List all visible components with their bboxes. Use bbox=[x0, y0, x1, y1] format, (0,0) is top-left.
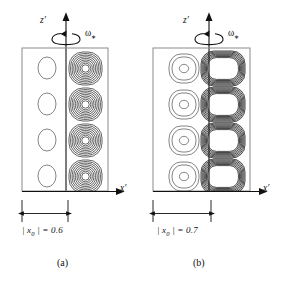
contour-row-a-4 bbox=[38, 160, 102, 193]
contour-row-a-1 bbox=[38, 52, 102, 85]
contour-row-b-3 bbox=[169, 123, 245, 158]
caption-a: (a) bbox=[57, 258, 68, 268]
panel-a: z′ ω∗ x′ | x0 | = 0.6 (a) bbox=[0, 0, 143, 293]
dimension-b bbox=[153, 200, 211, 222]
contour-row-b-1 bbox=[169, 51, 245, 86]
axis-x-label-b: x′ bbox=[263, 184, 269, 194]
axis-x-label-a: x′ bbox=[120, 184, 126, 194]
panel-a-graphic bbox=[0, 0, 143, 293]
contour-row-b-2 bbox=[169, 87, 245, 122]
dimension-label-b: | x0 | = 0.7 bbox=[157, 226, 198, 237]
contour-row-a-2 bbox=[38, 88, 102, 121]
contour-row-b-4 bbox=[169, 159, 245, 194]
omega-label-b: ω∗ bbox=[228, 29, 239, 40]
contour-field-a bbox=[38, 52, 102, 193]
caption-b: (b) bbox=[193, 258, 205, 268]
axis-z-label-b: z′ bbox=[183, 16, 189, 26]
contour-row-a-3 bbox=[38, 124, 102, 157]
panel-b-graphic bbox=[143, 0, 286, 293]
dimension-label-a: | x0 | = 0.6 bbox=[22, 226, 63, 237]
dimension-a bbox=[22, 200, 68, 222]
panel-b: z′ ω∗ x′ | x0 | = 0.7 (b) bbox=[143, 0, 286, 293]
figure-contour-pair: z′ ω∗ x′ | x0 | = 0.6 (a) bbox=[0, 0, 286, 293]
axis-z-label-a: z′ bbox=[40, 16, 46, 26]
omega-label-a: ω∗ bbox=[85, 29, 96, 40]
contour-field-b bbox=[169, 51, 245, 194]
